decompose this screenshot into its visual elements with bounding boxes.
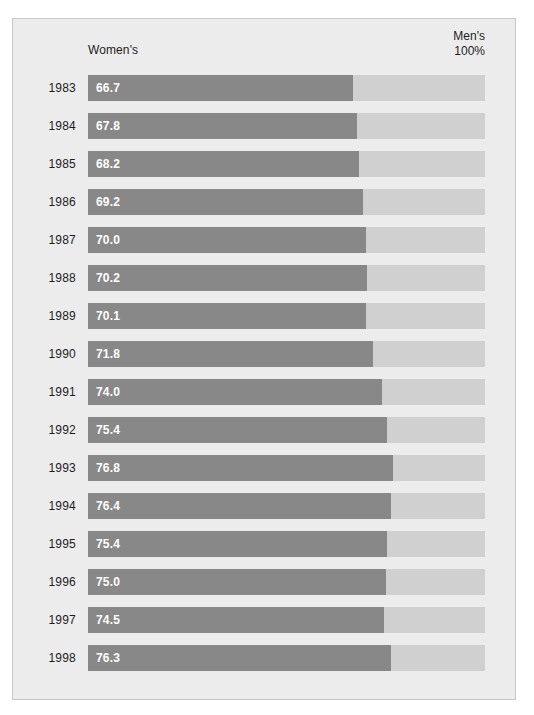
bar-track: 75.4: [88, 531, 485, 557]
bar-row: 199275.4: [13, 417, 515, 455]
year-label: 1992: [13, 417, 76, 443]
bar-fill: [88, 303, 366, 329]
bar-fill: [88, 75, 353, 101]
year-label: 1998: [13, 645, 76, 671]
bar-fill: [88, 607, 384, 633]
bar-row: 198770.0: [13, 227, 515, 265]
womens-axis-label: Women's: [88, 43, 138, 57]
bar-fill: [88, 189, 363, 215]
bar-value-label: 71.8: [96, 341, 120, 367]
bar-fill: [88, 569, 386, 595]
year-label: 1996: [13, 569, 76, 595]
bar-track: 68.2: [88, 151, 485, 177]
bar-value-label: 76.3: [96, 645, 120, 671]
bar-value-label: 69.2: [96, 189, 120, 215]
bar-row: 199174.0: [13, 379, 515, 417]
bar-track: 67.8: [88, 113, 485, 139]
bar-fill: [88, 455, 393, 481]
bar-row: 198970.1: [13, 303, 515, 341]
bar-track: 74.0: [88, 379, 485, 405]
year-label: 1995: [13, 531, 76, 557]
bar-fill: [88, 645, 391, 671]
bar-track: 70.2: [88, 265, 485, 291]
chart-figure: Women's Men's 100% 198366.7198467.819856…: [12, 18, 516, 700]
bar-track: 70.0: [88, 227, 485, 253]
bar-fill: [88, 341, 373, 367]
year-label: 1985: [13, 151, 76, 177]
bar-rows: 198366.7198467.8198568.2198669.2198770.0…: [13, 75, 515, 683]
bar-row: 199575.4: [13, 531, 515, 569]
bar-row: 198669.2: [13, 189, 515, 227]
bar-row: 199071.8: [13, 341, 515, 379]
year-label: 1986: [13, 189, 76, 215]
bar-fill: [88, 227, 366, 253]
bar-row: 199376.8: [13, 455, 515, 493]
bar-fill: [88, 531, 387, 557]
bar-track: 66.7: [88, 75, 485, 101]
bar-row: 199476.4: [13, 493, 515, 531]
chart-header: Women's Men's 100%: [13, 19, 515, 77]
bar-fill: [88, 151, 359, 177]
bar-value-label: 70.2: [96, 265, 120, 291]
bar-fill: [88, 417, 387, 443]
year-label: 1990: [13, 341, 76, 367]
bar-value-label: 74.5: [96, 607, 120, 633]
bar-value-label: 70.1: [96, 303, 120, 329]
bar-track: 76.4: [88, 493, 485, 519]
bar-value-label: 67.8: [96, 113, 120, 139]
bar-value-label: 68.2: [96, 151, 120, 177]
year-label: 1993: [13, 455, 76, 481]
year-label: 1991: [13, 379, 76, 405]
bar-value-label: 75.0: [96, 569, 120, 595]
bar-row: 198467.8: [13, 113, 515, 151]
bar-track: 74.5: [88, 607, 485, 633]
mens-axis-label-line1: Men's: [453, 29, 485, 44]
bar-row: 199774.5: [13, 607, 515, 645]
bar-track: 71.8: [88, 341, 485, 367]
bar-value-label: 66.7: [96, 75, 120, 101]
bar-track: 75.0: [88, 569, 485, 595]
bar-track: 70.1: [88, 303, 485, 329]
mens-axis-label-line2: 100%: [453, 44, 485, 59]
bar-value-label: 75.4: [96, 531, 120, 557]
year-label: 1989: [13, 303, 76, 329]
bar-fill: [88, 265, 367, 291]
year-label: 1987: [13, 227, 76, 253]
bar-row: 199876.3: [13, 645, 515, 683]
bar-track: 75.4: [88, 417, 485, 443]
year-label: 1988: [13, 265, 76, 291]
mens-axis-label: Men's 100%: [453, 29, 485, 59]
bar-track: 76.8: [88, 455, 485, 481]
bar-row: 199675.0: [13, 569, 515, 607]
bar-row: 198568.2: [13, 151, 515, 189]
bar-value-label: 76.4: [96, 493, 120, 519]
bar-fill: [88, 379, 382, 405]
bar-track: 69.2: [88, 189, 485, 215]
year-label: 1994: [13, 493, 76, 519]
year-label: 1997: [13, 607, 76, 633]
bar-track: 76.3: [88, 645, 485, 671]
bar-value-label: 76.8: [96, 455, 120, 481]
bar-value-label: 74.0: [96, 379, 120, 405]
year-label: 1983: [13, 75, 76, 101]
year-label: 1984: [13, 113, 76, 139]
bar-value-label: 75.4: [96, 417, 120, 443]
bar-value-label: 70.0: [96, 227, 120, 253]
bar-row: 198366.7: [13, 75, 515, 113]
bar-fill: [88, 113, 357, 139]
bar-row: 198870.2: [13, 265, 515, 303]
bar-fill: [88, 493, 391, 519]
